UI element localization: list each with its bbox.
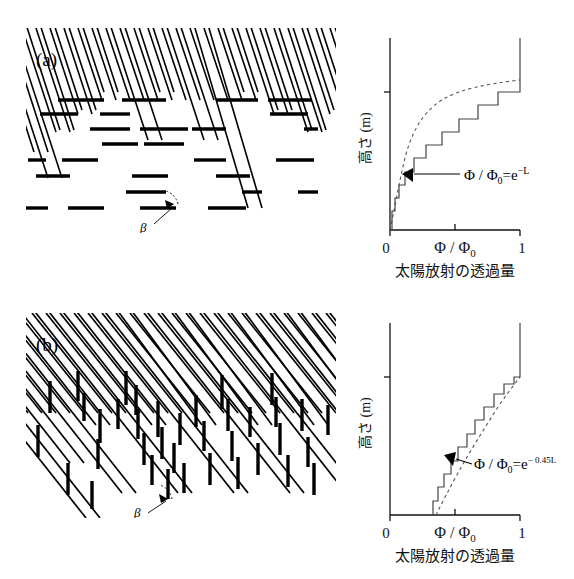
x-tick-label-a-0: 0 <box>382 240 390 256</box>
panel-label-b: (b) <box>36 334 58 356</box>
x-axis-label-b: Φ / Φ0 <box>434 524 476 544</box>
beta-label-b: β <box>133 505 141 518</box>
canopy-diagram-b-svg: β (b) <box>26 313 336 518</box>
equation-b: Φ / Φ0=e− 0.45L <box>474 455 556 475</box>
x-axis-label-a-sub: 0 <box>470 247 476 259</box>
top-banner <box>0 0 574 9</box>
sunbeam-hatching-a <box>26 28 336 224</box>
x-axis-caption-b: 太陽放射の透過量 <box>395 548 515 564</box>
x-axis-label-a-main: Φ / Φ <box>434 239 470 256</box>
transmittance-chart-a-svg: Φ / Φ0=e−L 高さ (m) 0 1 Φ / Φ0 太陽放射の透過量 <box>352 22 567 284</box>
y-axis-label-b: 高さ (m) <box>357 397 374 449</box>
step-profile-b <box>433 323 520 515</box>
canopy-diagram-a: β (a) <box>26 28 336 233</box>
panel-a: β (a) <box>0 10 574 290</box>
axes-b <box>384 323 520 521</box>
equation-a: Φ / Φ0=e−L <box>464 165 529 186</box>
axes-a <box>384 38 520 236</box>
x-tick-label-b-0: 0 <box>382 525 390 541</box>
equation-b-eq: =e <box>513 456 528 472</box>
equation-a-lhs: Φ / Φ <box>464 167 498 183</box>
exponential-curve-a <box>390 80 520 230</box>
panel-label-a: (a) <box>36 49 57 71</box>
canopy-diagram-a-svg: β (a) <box>26 28 336 233</box>
equation-a-exponent: −L <box>518 165 530 176</box>
svg-text:Φ / Φ0=e−L: Φ / Φ0=e−L <box>464 165 529 186</box>
svg-text:Φ / Φ0=e− 0.45L: Φ / Φ0=e− 0.45L <box>474 455 556 475</box>
beta-label-a: β <box>139 220 147 233</box>
upper-hatch-b <box>26 313 336 413</box>
equation-a-eq: =e <box>503 167 518 183</box>
step-profile-a <box>392 38 520 230</box>
equation-b-lhs: Φ / Φ <box>474 456 508 472</box>
exponential-curve-b <box>436 377 520 515</box>
figure-root: β (a) <box>0 0 574 579</box>
x-tick-label-b-1: 1 <box>518 525 526 541</box>
panel-b: β (b) <box>0 295 574 575</box>
x-axis-label-a: Φ / Φ0 <box>434 239 476 259</box>
annotation-arrow-a <box>402 168 460 182</box>
equation-b-exponent: − 0.45L <box>528 455 557 465</box>
canopy-diagram-b: β (b) <box>26 313 336 518</box>
x-axis-label-b-sub: 0 <box>470 532 476 544</box>
upper-hatch-a <box>26 28 336 152</box>
transmittance-chart-b-svg: Φ / Φ0=e− 0.45L 高さ (m) 0 1 Φ / Φ0 太陽放射の透… <box>352 307 567 569</box>
y-axis-label-a: 高さ (m) <box>357 112 374 164</box>
transmittance-chart-b: Φ / Φ0=e− 0.45L 高さ (m) 0 1 Φ / Φ0 太陽放射の透… <box>352 307 567 569</box>
x-tick-label-a-1: 1 <box>518 240 526 256</box>
x-axis-label-b-main: Φ / Φ <box>434 524 470 541</box>
x-axis-caption-a: 太陽放射の透過量 <box>395 263 515 279</box>
transmittance-chart-a: Φ / Φ0=e−L 高さ (m) 0 1 Φ / Φ0 太陽放射の透過量 <box>352 22 567 284</box>
